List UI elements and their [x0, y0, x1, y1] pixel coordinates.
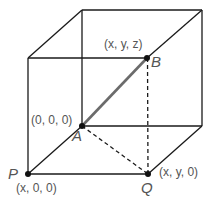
dashed-B-Q [148, 58, 149, 174]
point-Q-coords: (x, y, 0) [159, 166, 198, 178]
segment-A-B [82, 58, 147, 126]
point-B-label: B [151, 54, 161, 69]
edge-top-left-depth [28, 10, 82, 58]
point-P-dot [25, 171, 31, 177]
dashed-A-Q [82, 126, 148, 174]
edge-top-right-depth [147, 10, 202, 58]
point-A-coords: (0, 0, 0) [31, 114, 72, 126]
point-Q-dot [145, 171, 151, 177]
point-B-coords: (x, y, z) [104, 38, 142, 50]
cube-diagram: (x, y, z) B (0, 0, 0) A P (x, 0, 0) (x, … [0, 0, 208, 207]
point-B-dot [144, 55, 150, 61]
point-A-label: A [72, 128, 82, 143]
point-Q-label: Q [141, 180, 153, 195]
point-P-label: P [8, 166, 18, 181]
point-P-coords: (x, 0, 0) [16, 182, 57, 194]
